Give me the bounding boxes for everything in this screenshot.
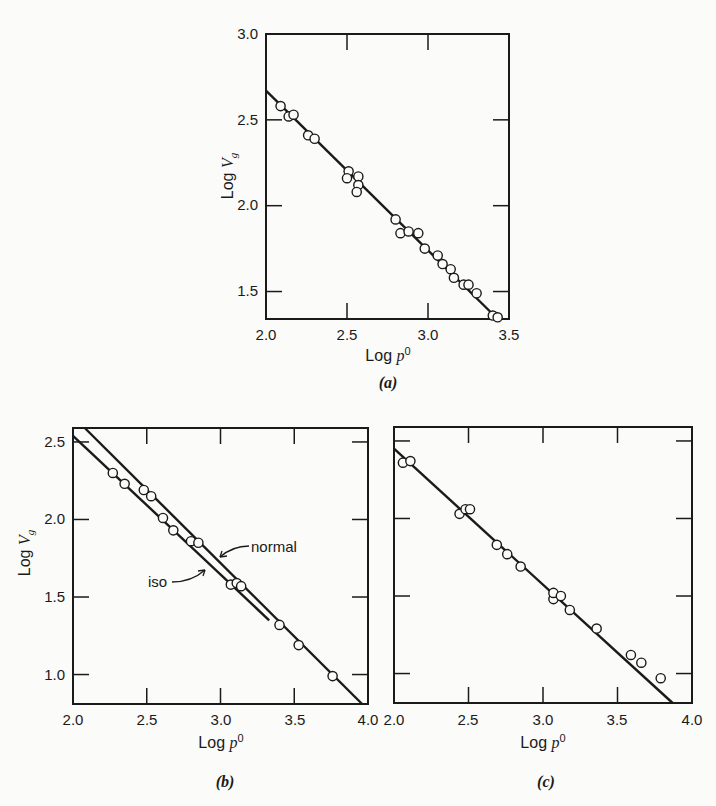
panel-a: 2.0 2.5 3.0 3.5 3.0 2.5 2.0 1.5 Log p0 L… [219,25,519,392]
data-point-marker [275,620,284,629]
arrow-iso [172,570,205,582]
data-point-marker [465,505,474,514]
data-point-marker [556,591,565,600]
line-normal [85,428,362,704]
annotation-iso: iso [148,573,167,590]
y-tick-label: 2.5 [237,111,258,128]
y-axis-label: Log Vg [219,152,239,199]
data-point-marker [352,187,361,196]
x-tick-label: 2.5 [337,326,358,343]
y-tick-labels: 2.5 2.0 1.5 1.0 [44,433,65,683]
x-tick-label: 3.0 [418,326,439,343]
x-tick-label: 3.5 [499,326,520,343]
x-tick-label: 3.5 [285,711,306,728]
y-axis-label: Log Vg [16,529,36,576]
data-point-marker [503,550,512,559]
data-point-marker [637,658,646,667]
data-point-marker [169,526,178,535]
x-tick-label: 2.5 [458,711,479,728]
data-point-marker [404,227,413,236]
data-point-marker [464,280,473,289]
data-point-marker [194,538,203,547]
x-tick-labels: 2.0 2.5 3.0 3.5 4.0 [63,711,379,728]
data-point-marker [433,251,442,260]
x-axis-label: Log p0 [520,732,565,752]
data-point-marker [626,650,635,659]
panel-c: 2.0 2.5 3.0 3.5 4.0 Log p0 (c) [384,427,703,791]
data-point-marker [516,562,525,571]
line-fit [394,449,673,703]
data-point-marker [492,540,501,549]
data-point-marker [328,671,337,680]
x-axis-label: Log p0 [198,732,243,752]
y-tick-label: 2.0 [44,510,65,527]
data-point-marker [493,313,502,322]
data-point-marker [592,624,601,633]
data-point-marker [354,172,363,181]
plot-frame [266,34,509,319]
panel-label: (c) [537,773,555,791]
panel-b: 2.0 2.5 3.0 3.5 4.0 2.5 2.0 1.5 1.0 Log … [16,428,378,791]
arrow-normal [220,546,249,557]
x-tick-label: 2.0 [63,711,84,728]
axis-ticks [266,34,509,319]
y-tick-label: 1.5 [237,282,258,299]
plot-frame [73,428,368,704]
data-point-marker [289,110,298,119]
x-axis-label: Log p0 [365,345,410,365]
panel-label: (b) [216,773,235,791]
y-tick-label: 2.5 [44,433,65,450]
data-point-marker [656,674,665,683]
x-tick-label: 3.0 [533,711,554,728]
axis-ticks [73,428,368,704]
panel-label: (a) [379,374,398,392]
data-point-marker [147,492,156,501]
x-tick-label: 4.0 [358,711,379,728]
data-point-marker [565,605,574,614]
data-point-marker [108,468,117,477]
annotation-normal: normal [251,538,297,555]
y-tick-labels: 3.0 2.5 2.0 1.5 [237,25,258,299]
y-tick-label: 1.5 [44,588,65,605]
data-point-marker [294,640,303,649]
data-point-marker [342,174,351,183]
data-point-marker [237,582,246,591]
data-point-marker [406,457,415,466]
x-tick-labels: 2.0 2.5 3.0 3.5 4.0 [384,711,703,728]
plot-frame [394,427,692,703]
data-point-marker [276,102,285,111]
y-tick-label: 2.0 [237,196,258,213]
data-point-marker [472,289,481,298]
y-tick-label: 1.0 [44,666,65,683]
data-point-marker [158,513,167,522]
data-point-marker [420,244,429,253]
x-tick-labels: 2.0 2.5 3.0 3.5 [256,326,520,343]
figure: 2.0 2.5 3.0 3.5 3.0 2.5 2.0 1.5 Log p0 L… [0,0,716,806]
y-tick-label: 3.0 [237,25,258,42]
x-tick-label: 2.0 [384,711,405,728]
x-tick-label: 2.0 [256,326,277,343]
x-tick-label: 3.0 [211,711,232,728]
axis-ticks [394,427,692,703]
x-tick-label: 3.5 [607,711,628,728]
data-point-marker [310,134,319,143]
x-tick-label: 4.0 [682,711,703,728]
data-point-marker [391,215,400,224]
data-point-marker [446,265,455,274]
fit-line [394,449,673,703]
data-point-marker [449,273,458,282]
data-point-marker [120,479,129,488]
x-tick-label: 2.5 [137,711,158,728]
data-point-marker [414,229,423,238]
